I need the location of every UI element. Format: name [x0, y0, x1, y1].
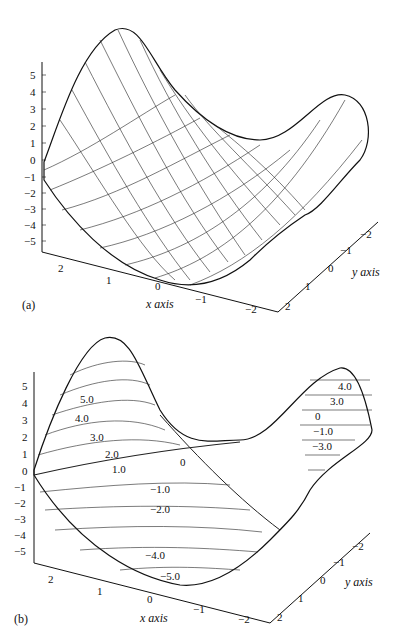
contour-label-1: 1.0: [112, 463, 126, 475]
z-tick-2: 2: [30, 120, 36, 132]
contour-label-5: 5.0: [80, 393, 94, 405]
right-contour-neg3: −3.0: [312, 440, 332, 452]
right-contour-neg1: −1.0: [313, 425, 333, 437]
right-contour-4: 4.0: [338, 380, 352, 392]
x-tick-neg1: −1: [195, 293, 207, 305]
z-tick-neg4: −4: [14, 529, 26, 541]
z-tick-neg3: −3: [24, 203, 36, 215]
y-tick-0: 0: [320, 574, 326, 586]
panel-label-b: (b): [14, 613, 28, 625]
z-tick-neg2: −2: [14, 497, 26, 509]
y-tick-1: 1: [298, 592, 304, 604]
z-tick-1: 1: [22, 448, 28, 460]
z-tick-4: 4: [30, 86, 36, 98]
y-tick-2: 2: [277, 611, 283, 623]
contour-label-3: 3.0: [90, 431, 104, 443]
z-tick-neg5: −5: [24, 235, 36, 247]
x-tick-1: 1: [106, 274, 112, 286]
z-tick-3: 3: [30, 103, 36, 115]
panel-label-a: (a): [22, 299, 35, 311]
panel-b-contour: 5 4 3 2 1 0 −1 −2 −3 −4 −5 5.0 4.0 3.0 2…: [0, 320, 400, 641]
contour-label-neg1: −1.0: [150, 483, 170, 495]
contour-label-neg5: −5.0: [160, 570, 180, 582]
y-tick-2: 2: [285, 300, 291, 312]
z-tick-neg5: −5: [14, 545, 26, 557]
z-tick-neg3: −3: [14, 513, 26, 525]
y-tick-1: 1: [305, 280, 311, 292]
x-axis-label: x axis: [146, 298, 174, 310]
z-tick-neg1: −1: [14, 481, 26, 493]
right-contour-0: 0: [315, 410, 321, 422]
y-tick-neg2: −2: [360, 228, 372, 240]
contour-label-0: 0: [180, 456, 186, 468]
x-tick-0: 0: [155, 280, 161, 292]
z-tick-neg1: −1: [24, 171, 36, 183]
x-tick-2: 2: [58, 262, 64, 274]
y-tick-neg2: −2: [352, 540, 364, 552]
z-tick-neg2: −2: [24, 187, 36, 199]
contour-label-4: 4.0: [75, 412, 89, 424]
x-tick-0: 0: [147, 593, 153, 605]
z-tick-3: 3: [22, 414, 28, 426]
contour-label-2: 2.0: [105, 448, 119, 460]
y-tick-0: 0: [328, 262, 334, 274]
y-tick-neg1: −1: [340, 244, 352, 256]
right-contour-3: 3.0: [330, 395, 344, 407]
z-tick-0: 0: [30, 154, 36, 166]
z-tick-1: 1: [30, 137, 36, 149]
x-tick-1: 1: [97, 585, 103, 597]
contour-surface-plot: [0, 320, 400, 641]
z-tick-4: 4: [22, 397, 28, 409]
z-tick-5: 5: [22, 380, 28, 392]
y-tick-neg1: −1: [333, 556, 345, 568]
z-tick-5: 5: [30, 69, 36, 81]
x-tick-neg1: −1: [193, 603, 205, 615]
x-tick-neg2: −2: [238, 613, 250, 625]
z-tick-0: 0: [22, 465, 28, 477]
contour-label-neg2: −2.0: [150, 503, 170, 515]
x-tick-neg2: −2: [245, 303, 257, 315]
z-tick-2: 2: [22, 431, 28, 443]
x-axis-label: x axis: [140, 612, 168, 624]
x-axis-label-text: x axis: [146, 297, 174, 311]
y-axis-label: y axis: [345, 576, 373, 588]
contour-label-neg4: −4.0: [145, 549, 165, 561]
z-tick-neg4: −4: [24, 219, 36, 231]
panel-a-wireframe: 5 4 3 2 1 0 −1 −2 −3 −4 −5 2 1 0 −1 −2 x…: [0, 0, 400, 320]
y-axis-label: y axis: [352, 266, 380, 278]
x-tick-2: 2: [48, 573, 54, 585]
